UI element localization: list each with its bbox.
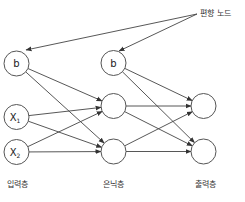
edge-in_x1-to-hid_1	[29, 107, 101, 115]
node-circle	[101, 94, 126, 119]
neural-network-diagram: 편향 노드 bX1X2b 입력층은닉층출력층	[0, 0, 245, 202]
node-circle	[101, 139, 126, 164]
node-label: b	[13, 58, 19, 69]
layer-labels-group: 입력층은닉층출력층	[7, 179, 216, 189]
node-in_x2: X2	[4, 140, 29, 165]
node-in_x1: X1	[4, 105, 29, 130]
bias-annotation-arrow-2	[119, 14, 197, 51]
edge-in_x1-to-hid_2	[28, 121, 101, 147]
node-out_1	[191, 94, 216, 119]
layer-label-hidden: 은닉층	[103, 180, 124, 189]
layer-label-output: 출력층	[195, 179, 216, 189]
bias-annotation-arrow-1	[26, 14, 197, 50]
node-circle	[191, 94, 216, 119]
node-out_2	[191, 139, 216, 164]
edge-in_b-to-hid_2	[26, 72, 104, 143]
node-label: b	[110, 58, 116, 69]
node-circle	[191, 139, 216, 164]
node-hid_b: b	[101, 51, 126, 76]
edge-in_b-to-hid_1	[28, 69, 102, 101]
node-in_b: b	[4, 51, 29, 76]
node-hid_2	[101, 139, 126, 164]
nodes-group: bX1X2b	[4, 51, 216, 165]
edge-in_x2-to-hid_1	[28, 111, 102, 146]
edge-hid_b-to-out_2	[122, 72, 194, 143]
bias-annotation-group: 편향 노드	[26, 8, 231, 51]
node-hid_1	[101, 94, 126, 119]
bias-node-annotation-label: 편향 노드	[200, 8, 231, 18]
layer-label-input: 입력층	[7, 179, 28, 189]
